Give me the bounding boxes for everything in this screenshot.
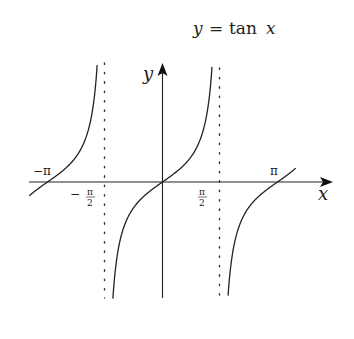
y-axis-label: y [142, 63, 154, 84]
fraction-numerator: π [199, 187, 205, 197]
fraction-denominator: 2 [87, 198, 93, 208]
title-lhs: y [192, 18, 203, 38]
tan-plot: y = tan x y x −π π − π 2 π 2 [0, 0, 354, 339]
tick-label-pi: π [270, 164, 278, 178]
fraction-numerator: π [87, 187, 93, 197]
tick-label-half-pi: π 2 [198, 187, 207, 208]
tan-branch-right [228, 168, 296, 295]
tick-label-neg-pi: −π [33, 164, 51, 178]
fraction-denominator: 2 [199, 198, 205, 208]
title-equals: = [209, 18, 223, 38]
tick-label-neg-half-pi: − π 2 [70, 187, 95, 208]
x-axis-label: x [318, 183, 328, 204]
title-function: tan [229, 18, 257, 38]
minus-sign: − [70, 187, 80, 201]
chart-title: y = tan x [192, 18, 276, 38]
title-arg: x [266, 18, 276, 38]
